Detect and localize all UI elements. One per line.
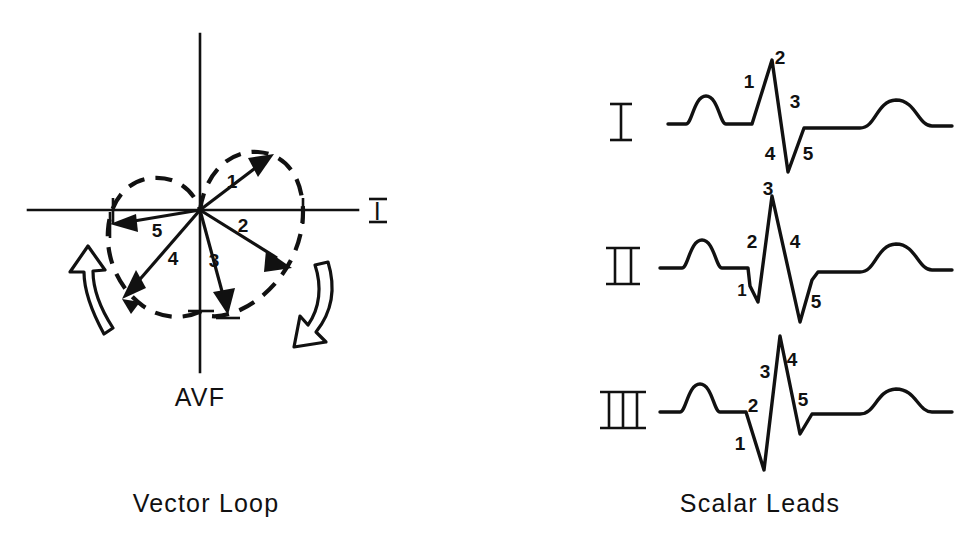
lead-III-label-1: 1 [735, 433, 746, 454]
left-rotation-arrow [70, 246, 113, 334]
vector-loop-right-lobe [199, 152, 303, 316]
lead-I-label-5: 5 [803, 143, 814, 164]
lead-III-label-3: 3 [760, 361, 771, 382]
lead-I-label-2: 2 [775, 47, 786, 68]
vector-label-3: 3 [209, 250, 220, 271]
lead-II-label-3: 3 [763, 178, 774, 199]
scalar-leads-caption: Scalar Leads [680, 489, 840, 517]
lead-II-label-2: 2 [747, 231, 758, 252]
lead-III-label-4: 4 [787, 349, 798, 370]
vector-loop-panel: 1 2 3 4 5 I AVF Vector Loop [28, 34, 387, 517]
lead-II-numeral [606, 248, 640, 284]
lead-II-group: 1 2 3 4 5 [606, 178, 952, 322]
vector-label-4: 4 [168, 248, 179, 269]
lead-I-label-1: 1 [744, 71, 755, 92]
scalar-leads-panel: 1 2 3 4 5 1 2 3 4 5 [600, 47, 952, 517]
lead-II-label-4: 4 [790, 231, 801, 252]
lead-III-numeral [600, 392, 646, 428]
lead-II-label-1: 1 [737, 281, 746, 300]
lead-I-group: 1 2 3 4 5 [610, 47, 952, 172]
vector-3 [200, 210, 240, 318]
vector-loop-caption: Vector Loop [133, 489, 280, 517]
avf-label: AVF [175, 383, 225, 411]
ecg-figure: 1 2 3 4 5 I AVF Vector Loop [0, 0, 971, 550]
vector-label-5: 5 [152, 220, 163, 241]
lead-II-label-5: 5 [811, 291, 822, 312]
lead-III-label-2: 2 [748, 395, 759, 416]
right-rotation-arrow [294, 262, 332, 347]
lead-I-label-4: 4 [765, 143, 776, 164]
lead-III-label-5: 5 [798, 389, 809, 410]
vector-label-2: 2 [238, 215, 249, 236]
lead-II-trace [660, 196, 952, 322]
figure-canvas: 1 2 3 4 5 I AVF Vector Loop [0, 0, 971, 550]
vector-label-1: 1 [227, 171, 238, 192]
lead-I-numeral [610, 104, 632, 140]
vector-loop-left-lobe [108, 178, 200, 317]
lead-I-label-3: 3 [790, 91, 801, 112]
lead-III-group: 1 2 3 4 5 [600, 336, 952, 470]
